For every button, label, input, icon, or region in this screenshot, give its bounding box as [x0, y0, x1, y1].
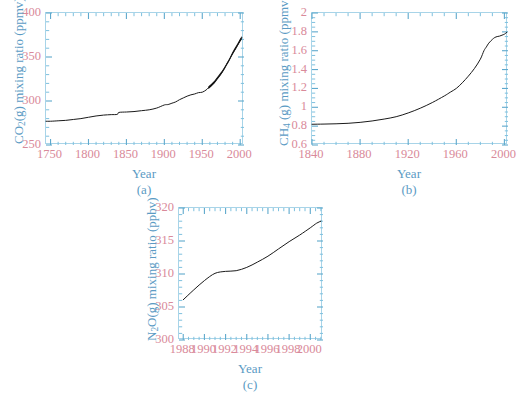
plot-area-b	[312, 13, 508, 145]
panel-caption-c: (c)	[243, 378, 257, 391]
panel-a-co2: 250300350400 175018001850190019502000 CO…	[0, 0, 264, 199]
co2-seasonal-band	[208, 36, 241, 89]
x-tick-label: 1880	[347, 148, 372, 161]
x-axis-title-a: Year	[132, 167, 156, 180]
x-tick-label: 1840	[299, 148, 324, 161]
x-tick-label: 1750	[37, 148, 62, 161]
plot-frame-c	[178, 207, 322, 339]
x-tick-label: 1960	[443, 148, 468, 161]
greenhouse-gas-figure: 250300350400 175018001850190019502000 CO…	[0, 0, 528, 398]
x-tick-label: 1900	[151, 148, 176, 161]
panel-b-ch4: 0.60.811.21.41.61.82 1840188019201960200…	[264, 0, 528, 199]
x-tick-label: 1850	[113, 148, 138, 161]
x-tick-label: 1950	[189, 148, 214, 161]
panel-caption-b: (b)	[401, 183, 416, 196]
plot-frame-a	[45, 12, 243, 144]
x-tick-label: 1800	[75, 148, 100, 161]
n2o-curve	[183, 221, 321, 300]
panel-caption-a: (a)	[137, 183, 151, 196]
plot-area-a	[46, 13, 244, 145]
y-axis-title-b: CH4 (g) mixing ratio (ppmv)	[277, 0, 293, 146]
x-axis-title-c: Year	[238, 362, 262, 375]
y-axis-title-a: CO2(g) mixing ratio (ppmv)	[12, 0, 28, 144]
x-tick-label: 2000	[227, 148, 252, 161]
ch4-curve	[312, 32, 507, 124]
x-tick-label: 2000	[491, 148, 516, 161]
y-axis-title-a-text: CO2(g) mixing ratio (ppmv)	[11, 0, 26, 144]
plot-area-c	[179, 208, 323, 340]
y-axis-title-c-text: N2O(g) mixing ratio (ppbv)	[144, 197, 159, 341]
plot-frame-b	[311, 12, 507, 144]
x-axis-title-b: Year	[397, 167, 421, 180]
y-axis-title-b-text: CH4 (g) mixing ratio (ppmv)	[276, 0, 291, 146]
x-tick-label: 1920	[395, 148, 420, 161]
y-axis-title-c: N2O(g) mixing ratio (ppbv)	[145, 197, 161, 341]
x-tick-label: 2000	[297, 343, 322, 356]
co2-curve	[46, 38, 242, 122]
panel-c-n2o: 300305310315320 198819901992199419961998…	[132, 199, 396, 398]
